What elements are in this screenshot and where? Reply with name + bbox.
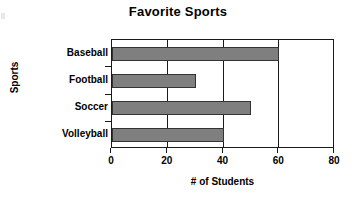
x-axis-tick-label: 80 xyxy=(314,155,354,166)
y-axis-tick-labels: BaseballFootballSoccerVolleyball xyxy=(4,39,108,148)
x-axis-tick xyxy=(333,148,334,153)
x-axis-tick xyxy=(277,148,278,153)
y-axis-tick xyxy=(105,94,111,95)
bar xyxy=(112,101,251,115)
x-axis-tick-label: 20 xyxy=(147,155,187,166)
y-axis-tick xyxy=(105,121,111,122)
bar xyxy=(112,128,224,142)
y-axis-tick-label: Baseball xyxy=(8,47,108,59)
x-axis-tick-label: 60 xyxy=(258,155,298,166)
bar xyxy=(112,74,196,88)
y-axis-tick-label: Soccer xyxy=(8,101,108,113)
y-axis-tick-label: Football xyxy=(8,74,108,86)
x-axis-title: # of Students xyxy=(111,176,334,187)
favorite-sports-bar-chart: Favorite Sports Sports BaseballFootballS… xyxy=(0,0,356,202)
x-axis-tick xyxy=(110,148,111,153)
x-axis-tick xyxy=(166,148,167,153)
y-axis-tick xyxy=(105,66,111,67)
plot-area xyxy=(111,39,334,148)
x-axis-tick-label: 0 xyxy=(91,155,131,166)
x-axis-tick xyxy=(222,148,223,153)
x-axis-tick-label: 40 xyxy=(203,155,243,166)
y-axis-tick-label: Volleyball xyxy=(8,128,108,140)
chart-title: Favorite Sports xyxy=(0,4,356,20)
bar xyxy=(112,47,279,61)
